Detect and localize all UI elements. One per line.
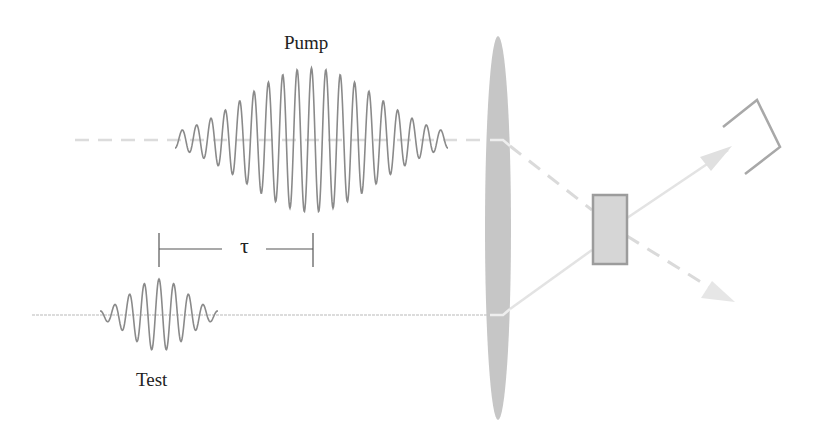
test-label: Test (136, 369, 167, 391)
test-beam-focused (510, 250, 592, 309)
delay-tau-label: τ (240, 233, 249, 259)
delay-bracket (159, 233, 313, 267)
transmitted-pump-arrow (701, 281, 735, 302)
focusing-lens (485, 36, 511, 420)
sample-crystal (593, 195, 627, 264)
pump-label: Pump (284, 32, 328, 54)
detector (723, 100, 780, 174)
transmitted-test-arrow (700, 146, 732, 171)
pump-probe-diagram (0, 0, 814, 436)
pump-beam-focused (510, 146, 592, 210)
